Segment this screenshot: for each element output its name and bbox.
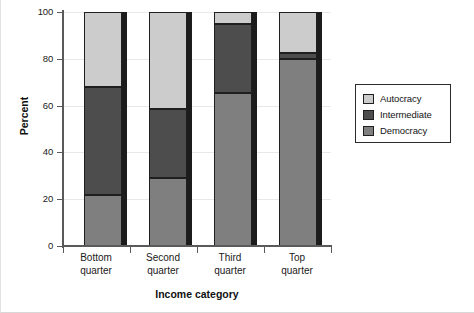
y-tick-label-60: 60 [9, 100, 53, 111]
legend-swatch-autocracy-icon [363, 94, 374, 104]
y-tick-60 [57, 106, 63, 107]
bar-third-quarter[interactable] [214, 12, 252, 246]
segment-democracy-4[interactable] [279, 59, 317, 246]
y-tick-label-0: 0 [9, 240, 53, 251]
chart-legend: Autocracy Intermediate Democracy [355, 84, 451, 143]
y-tick-40 [57, 152, 63, 153]
bar-second-quarter[interactable] [149, 12, 187, 246]
plot-area [63, 12, 331, 246]
bar-shadow-1 [122, 12, 127, 246]
legend-item-autocracy[interactable]: Autocracy [363, 91, 444, 106]
x-label-top-quarter: Top quarter [253, 252, 341, 277]
y-tick-100 [57, 12, 63, 13]
y-tick-label-100: 100 [9, 6, 53, 17]
chart-figure: 100 80 60 40 20 0 Bottom quarter Second … [0, 0, 474, 313]
segment-autocracy-4[interactable] [279, 12, 317, 53]
legend-swatch-intermediate-icon [363, 110, 374, 120]
legend-label-autocracy: Autocracy [380, 93, 421, 104]
bar-bottom-quarter[interactable] [84, 12, 122, 246]
bar-shadow-2 [187, 12, 192, 246]
segment-intermediate-1[interactable] [84, 87, 122, 195]
legend-label-democracy: Democracy [380, 125, 427, 136]
segment-democracy-1[interactable] [84, 195, 122, 247]
y-tick-label-20: 20 [9, 193, 53, 204]
segment-autocracy-3[interactable] [214, 12, 252, 24]
legend-label-intermediate: Intermediate [380, 109, 432, 120]
x-label-line1: Top [253, 252, 341, 265]
bar-shadow-3 [252, 12, 257, 246]
legend-item-democracy[interactable]: Democracy [363, 123, 444, 138]
y-axis-title: Percent [18, 71, 30, 161]
bar-top-quarter[interactable] [279, 12, 317, 246]
y-tick-20 [57, 199, 63, 200]
segment-intermediate-2[interactable] [149, 109, 187, 178]
y-tick-label-40: 40 [9, 146, 53, 157]
segment-democracy-2[interactable] [149, 178, 187, 246]
legend-item-intermediate[interactable]: Intermediate [363, 107, 444, 122]
x-label-line2: quarter [253, 265, 341, 278]
x-axis-title: Income category [63, 288, 331, 300]
segment-autocracy-1[interactable] [84, 12, 122, 87]
bar-shadow-4 [317, 12, 322, 246]
y-tick-80 [57, 59, 63, 60]
segment-intermediate-3[interactable] [214, 24, 252, 93]
segment-democracy-3[interactable] [214, 93, 252, 246]
segment-intermediate-4[interactable] [279, 53, 317, 59]
segment-autocracy-2[interactable] [149, 12, 187, 109]
y-tick-label-80: 80 [9, 53, 53, 64]
y-axis-line [62, 10, 64, 248]
legend-swatch-democracy-icon [363, 126, 374, 136]
